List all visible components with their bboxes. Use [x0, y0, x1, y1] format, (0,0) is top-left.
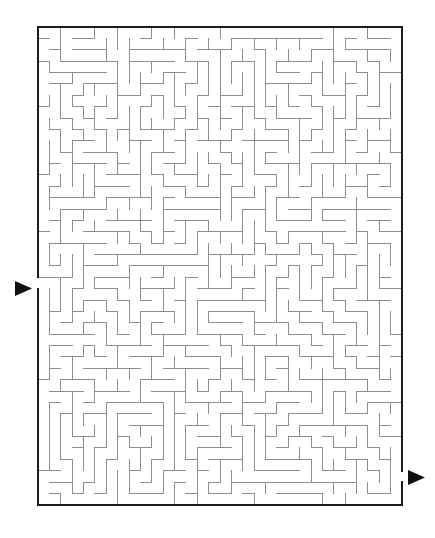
maze-canvas: [0, 0, 435, 538]
maze-page: [0, 0, 435, 538]
maze-inner-walls: [38, 27, 402, 505]
entrance-arrow: [15, 281, 32, 296]
exit-arrow: [408, 470, 425, 485]
